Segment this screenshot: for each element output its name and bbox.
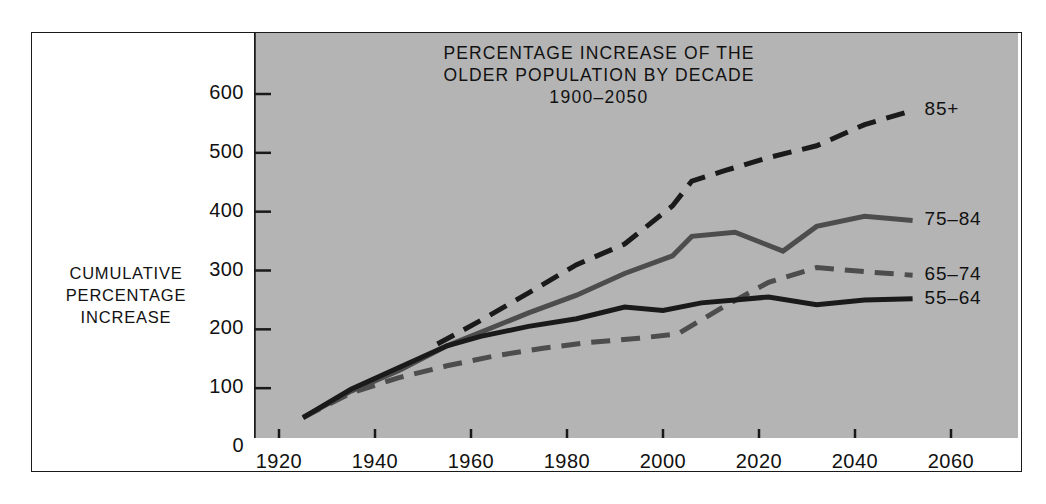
plot-panel xyxy=(254,33,1018,438)
x-tick-label: 2020 xyxy=(719,450,799,473)
y-tick-label: 600 xyxy=(174,81,244,104)
y-axis-title-line-2: PERCENTAGE xyxy=(46,284,206,306)
chart-page: PERCENTAGE INCREASE OF THE OLDER POPULAT… xyxy=(0,0,1046,504)
series-line-65-74 xyxy=(303,268,913,418)
y-tick-label: 500 xyxy=(174,140,244,163)
x-tick-label: 1920 xyxy=(239,450,319,473)
y-tick-label: 0 xyxy=(174,434,244,457)
x-tick-label: 1980 xyxy=(527,450,607,473)
x-tick-label: 1960 xyxy=(431,450,511,473)
chart-svg xyxy=(254,33,1018,438)
y-tick-label: 200 xyxy=(174,316,244,339)
series-label-85plus: 85+ xyxy=(925,98,960,120)
x-tick-label: 2060 xyxy=(911,450,991,473)
series-label-55-64: 55–64 xyxy=(925,287,982,309)
x-tick-label: 2040 xyxy=(815,450,895,473)
series-label-75-84: 75–84 xyxy=(925,208,982,230)
y-tick-label: 400 xyxy=(174,199,244,222)
series-label-65-74: 65–74 xyxy=(925,263,982,285)
y-tick-label: 100 xyxy=(174,375,244,398)
x-tick-label: 2000 xyxy=(623,450,703,473)
series-line-75-84 xyxy=(303,216,913,417)
x-tick-label: 1940 xyxy=(335,450,415,473)
y-tick-label: 300 xyxy=(174,258,244,281)
series-line-55-64 xyxy=(303,297,913,418)
